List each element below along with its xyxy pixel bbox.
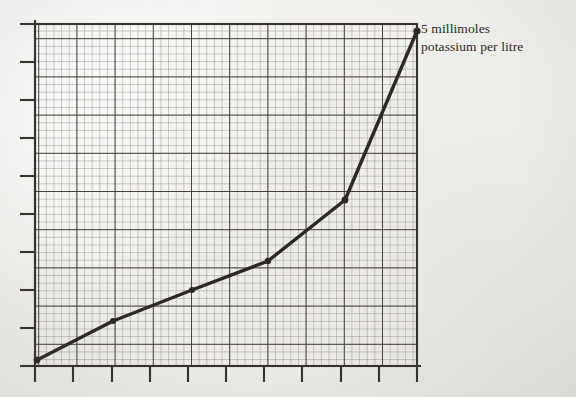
grid-major-lines <box>35 24 417 366</box>
data-point-marker <box>34 357 41 364</box>
annotation-line-1: 5 millimoles <box>421 20 573 38</box>
graph-paper-plot <box>0 0 576 397</box>
annotation-line-2: potassium per litre <box>421 38 573 56</box>
y-axis-ticks <box>20 24 35 366</box>
y-axis <box>20 20 35 371</box>
x-axis-ticks <box>35 366 417 382</box>
data-point-marker <box>413 27 420 34</box>
data-point-marker <box>265 258 271 264</box>
data-point-marker <box>342 197 349 204</box>
curve-annotation: 5 millimoles potassium per litre <box>421 20 573 56</box>
x-axis <box>30 366 421 382</box>
data-point-marker <box>189 287 195 293</box>
data-point-marker <box>110 318 116 324</box>
chart-figure <box>0 0 576 397</box>
